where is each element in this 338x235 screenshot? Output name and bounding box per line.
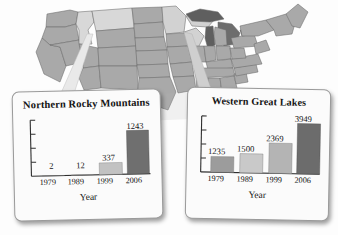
x-tick-2006: 2006: [294, 176, 311, 185]
value-label-2006: 3949: [295, 114, 312, 124]
bar-chart-northern-rocky-mountains: 2 12 337 1243 1979 1989 1999 2006: [13, 109, 162, 194]
bar-chart-western-great-lakes: 1235 1500 2369 3949 1979 1989 1999 2006: [186, 108, 330, 193]
x-tick-2006: 2006: [125, 176, 142, 185]
x-tick-1999: 1999: [265, 175, 282, 184]
value-label-1999: 2369: [266, 133, 283, 143]
callout-panel-northern-rocky-mountains: Northern Rocky Mountains: [12, 88, 164, 221]
x-tick-1989: 1989: [68, 177, 85, 186]
x-tick-1989: 1989: [236, 175, 253, 184]
bar-1999: [99, 162, 122, 174]
x-tick-1979: 1979: [207, 174, 224, 183]
bar-1989: [240, 154, 263, 174]
panel-title-nrm: Northern Rocky Mountains: [16, 96, 157, 110]
bar-1999: [269, 143, 293, 174]
value-label-1989: 1500: [237, 144, 254, 154]
value-label-2006: 1243: [126, 121, 143, 131]
callout-panel-western-great-lakes: Western Great Lakes: [185, 87, 332, 222]
bar-2006: [126, 130, 149, 174]
value-label-1979: 1235: [208, 146, 225, 156]
x-tick-1979: 1979: [40, 178, 57, 187]
x-tick-1999: 1999: [96, 176, 113, 185]
bars-nrm: [41, 130, 149, 176]
panel-title-wgl: Western Great Lakes: [191, 95, 327, 109]
bar-1979: [211, 156, 234, 172]
value-label-1979: 2: [49, 161, 54, 171]
bars-wgl: [211, 122, 321, 174]
value-label-1989: 12: [76, 160, 85, 170]
bar-2006: [297, 123, 321, 174]
value-label-1999: 337: [102, 152, 115, 162]
figure-canvas: Northern Rocky Mountains: [0, 0, 338, 235]
